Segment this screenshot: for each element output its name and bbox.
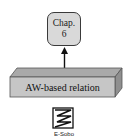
zigzag-document-icon: [0, 0, 129, 137]
source-icon-caption: E-Sobo: [49, 130, 79, 137]
